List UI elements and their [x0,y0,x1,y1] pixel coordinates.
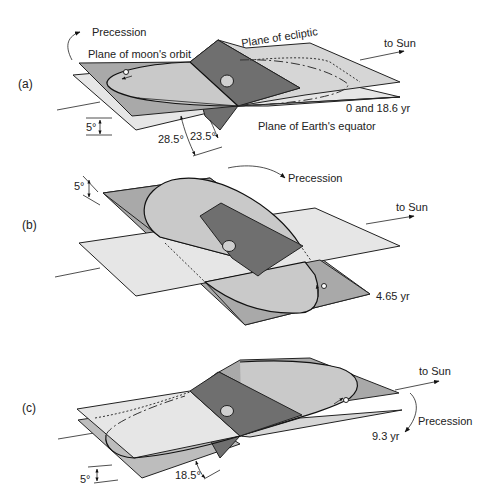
angle-tick [204,470,220,479]
earth-icon [223,241,236,252]
panel-b-precession-label: Precession [288,172,342,184]
moon-icon [344,398,349,403]
panel-c-inclination-label: 5° [80,473,91,485]
panel-a-to-sun-label: to Sun [384,37,416,49]
equator-plane-label: Plane of Earth's equator [258,120,376,132]
panel-a-max-declination-label: 28.5° [158,133,184,145]
to-sun-arrow-icon [360,51,404,60]
moon-icon [322,284,327,289]
precession-arrow-icon [68,32,80,60]
node-line-left [57,102,100,110]
panel-b-time-label: 4.65 yr [376,290,410,302]
panel-c: (c) to Sun Precession 9.3 yr [22,358,472,485]
panel-c-to-sun-label: to Sun [419,365,451,377]
panel-a-time-label: 0 and 18.6 yr [346,102,411,114]
earth-icon [221,75,234,87]
precession-arrow-icon [228,166,285,178]
earth-icon [221,406,234,417]
panel-a-label: (a) [18,77,33,91]
panel-a-precession-label: Precession [92,26,146,38]
angle-tick [88,465,112,467]
panel-a-inclination-label: 5° [86,121,97,133]
moon-orbit-precession-diagram: (a) Precession Plane of moon's orbit Pla… [0,0,478,495]
panel-c-label: (c) [22,401,36,415]
angle-tick [94,480,118,483]
panel-c-min-declination-label: 18.5° [175,469,201,481]
node-line-left [55,268,100,277]
to-sun-arrow-icon [366,216,414,224]
precession-arrow-icon [405,393,416,432]
panel-b-inclination-label: 5° [74,180,85,192]
panel-c-time-label: 9.3 yr [372,430,400,442]
panel-b: (b) Precession to Sun 4.65 yr [22,166,428,325]
panel-a-obliquity-label: 23.5° [190,130,216,142]
panel-c-precession-label: Precession [418,415,472,427]
panel-b-to-sun-label: to Sun [396,201,428,213]
angle-tick [83,195,100,205]
moon-icon [124,70,129,75]
panel-b-label: (b) [22,218,37,232]
angle-tick [193,147,222,156]
angle-tick [83,176,98,192]
moon-orbit-plane-label: Plane of moon's orbit [88,48,191,60]
panel-a: (a) Precession Plane of moon's orbit Pla… [18,25,416,156]
to-sun-arrow-icon [395,381,439,390]
